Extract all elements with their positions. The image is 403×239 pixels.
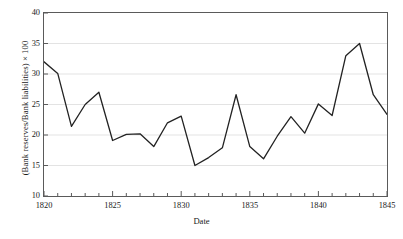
x-tick-label: 1845 (367, 201, 403, 211)
x-axis-title: Date (0, 216, 403, 226)
y-axis-tick-marks (44, 13, 48, 196)
y-tick-label: 10 (14, 192, 40, 200)
plot-area (43, 12, 388, 197)
x-axis-minor-ticks (44, 191, 387, 196)
y-tick-label: 35 (14, 40, 40, 48)
y-tick-label: 25 (14, 101, 40, 109)
y-tick-label: 20 (14, 131, 40, 139)
x-tick-label: 1825 (93, 201, 133, 211)
chart-plot-svg (44, 13, 387, 196)
x-tick-label: 1840 (298, 201, 338, 211)
grid-lines (44, 44, 387, 166)
x-tick-label: 1835 (230, 201, 270, 211)
y-tick-label: 40 (14, 9, 40, 17)
chart-figure: (Bank reserves/Bank liabilities) × 100 1… (0, 0, 403, 239)
x-tick-label: 1820 (24, 201, 64, 211)
y-tick-label: 30 (14, 70, 40, 78)
x-axis-tick-labels: 182018251830183518401845 (0, 201, 403, 217)
x-tick-label: 1830 (161, 201, 201, 211)
y-tick-label: 15 (14, 162, 40, 170)
